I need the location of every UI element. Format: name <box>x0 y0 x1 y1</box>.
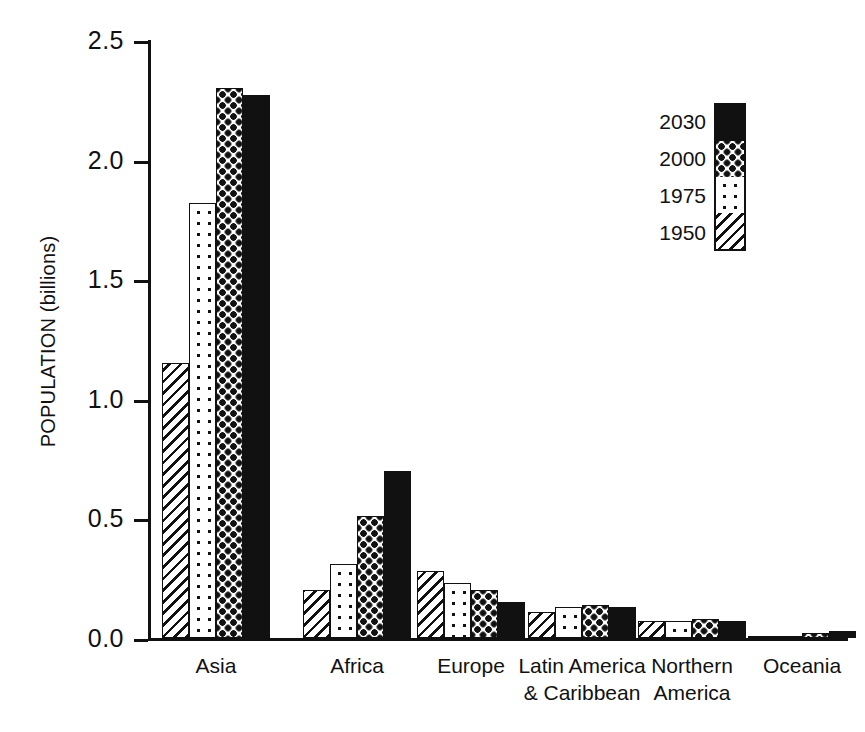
y-axis-tick: 2.0 <box>134 161 148 164</box>
x-axis-line <box>148 638 848 641</box>
bar <box>357 516 384 638</box>
bar <box>471 590 498 638</box>
y-axis-tick-label: 0.5 <box>88 504 124 533</box>
bar <box>829 631 856 638</box>
bar <box>384 471 411 638</box>
y-axis-tick-label: 1.0 <box>88 385 124 414</box>
bar <box>719 621 746 638</box>
bar <box>216 88 243 638</box>
bar <box>417 571 444 638</box>
y-axis-tick: 0.0 <box>134 639 148 642</box>
bar <box>243 95 270 638</box>
bar-group <box>417 40 525 638</box>
y-axis-tick-label: 1.5 <box>88 265 124 294</box>
legend-label: 2000 <box>659 147 706 171</box>
bar-group <box>303 40 411 638</box>
bar <box>330 564 357 638</box>
y-axis-tick-label: 0.0 <box>88 624 124 653</box>
legend-label: 2030 <box>659 110 706 134</box>
bar <box>303 590 330 638</box>
bar <box>189 203 216 638</box>
y-axis-tick: 1.5 <box>134 280 148 283</box>
bar <box>555 607 582 638</box>
legend-swatch <box>716 141 744 177</box>
bar <box>638 621 665 638</box>
bar <box>802 633 829 638</box>
y-axis-tick: 2.5 <box>134 41 148 44</box>
legend: 2030200019751950 <box>648 103 746 253</box>
bar <box>528 612 555 638</box>
legend-swatch-column <box>714 103 746 251</box>
bar <box>498 602 525 638</box>
y-axis-tick: 0.5 <box>134 519 148 522</box>
x-axis-category-label: Oceania <box>708 652 865 679</box>
bar-group <box>748 40 856 638</box>
y-axis-tick-label: 2.5 <box>88 26 124 55</box>
y-axis-tick: 1.0 <box>134 400 148 403</box>
population-bar-chart: POPULATION (billions) 0.00.51.01.52.02.5… <box>0 0 865 732</box>
legend-swatch <box>716 105 744 141</box>
legend-label: 1950 <box>659 221 706 245</box>
bar <box>692 619 719 638</box>
y-axis-tick-label: 2.0 <box>88 146 124 175</box>
bar <box>609 607 636 638</box>
legend-label: 1975 <box>659 184 706 208</box>
bar <box>775 636 802 638</box>
legend-swatch <box>716 213 744 249</box>
legend-swatch <box>716 177 744 213</box>
bar <box>582 605 609 638</box>
bar <box>665 621 692 638</box>
y-axis-line <box>148 40 151 641</box>
y-axis-title: POPULATION (billions) <box>37 192 60 492</box>
bar <box>162 363 189 638</box>
bar <box>444 583 471 638</box>
bar <box>748 636 775 638</box>
bar-group <box>162 40 270 638</box>
bar-group <box>528 40 636 638</box>
